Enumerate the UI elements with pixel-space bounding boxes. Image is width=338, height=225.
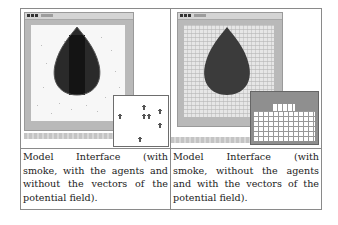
window-titlebar	[178, 13, 282, 20]
caption-line: potential field).	[173, 191, 319, 205]
caption-line: Model Interface (with	[173, 150, 319, 164]
caption-right: Model Interface (with smoke, without the…	[171, 149, 321, 210]
caption-line: smoke, with the agents and	[23, 164, 168, 178]
window-controls	[27, 14, 38, 17]
agent-icon	[148, 114, 150, 119]
agent-icon	[143, 105, 145, 110]
caption-left: Model Interface (with smoke, with the ag…	[21, 149, 170, 210]
caption-line: Model Interface (with	[23, 150, 168, 164]
potential-field-inset	[250, 91, 319, 145]
minimize-icon	[31, 14, 34, 17]
window-controls	[180, 14, 191, 17]
agent-icon	[159, 123, 161, 128]
caption-line: potential field).	[23, 191, 168, 205]
figure-cell-right	[171, 9, 321, 148]
agent-icon	[143, 114, 145, 119]
window-title	[194, 14, 206, 17]
smoke-drop-icon	[31, 25, 125, 121]
close-icon	[180, 14, 183, 17]
vector-grid-top	[273, 104, 295, 111]
window-title	[41, 14, 53, 17]
figure-cell-left	[21, 9, 170, 148]
maximize-icon	[188, 14, 191, 17]
status-bar	[171, 137, 251, 143]
minimize-icon	[184, 14, 187, 17]
window-titlebar	[25, 13, 133, 20]
caption-line: smoke, without the agents	[173, 164, 319, 178]
vector-grid	[254, 111, 315, 141]
figure-table: Model Interface (with smoke, with the ag…	[20, 8, 322, 210]
maximize-icon	[35, 14, 38, 17]
caption-line: without the vectors of the	[23, 177, 168, 191]
agent-icon	[159, 109, 161, 114]
agents-inset	[113, 95, 169, 147]
caption-line: and with the vectors of the	[173, 177, 319, 191]
agent-icon	[139, 137, 141, 142]
simulation-canvas	[31, 25, 125, 121]
agent-icon	[119, 114, 121, 119]
close-icon	[27, 14, 30, 17]
